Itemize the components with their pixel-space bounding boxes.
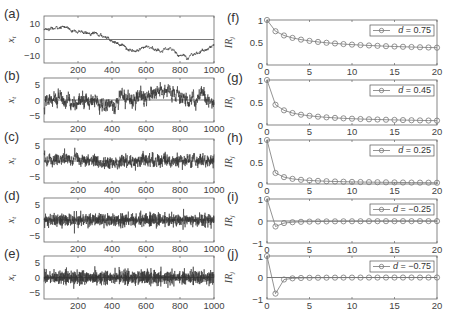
panel-label: (i) bbox=[227, 189, 239, 204]
y-tick-label: 0 bbox=[258, 179, 263, 190]
x-tick-label: 200 bbox=[70, 184, 86, 195]
y-axis-label: IRj bbox=[223, 215, 236, 227]
panel-g: (g)0510152010.50IRjd = 0.45 bbox=[223, 70, 442, 137]
panel-a: (a)2004006008001000100−10xt bbox=[4, 6, 225, 75]
y-tick-label: 0 bbox=[35, 272, 40, 283]
panel-h: (h)0510152010.50IRjd = 0.25 bbox=[223, 130, 442, 196]
time-series-line bbox=[44, 82, 214, 115]
y-tick-label: 5 bbox=[35, 79, 40, 90]
y-axis-label: IRj bbox=[223, 37, 236, 49]
panel-j: (j)0510152010−1IRjd = −0.75 bbox=[223, 246, 442, 311]
y-tick-label: 1 bbox=[258, 75, 263, 86]
panel-label: (d) bbox=[4, 188, 20, 203]
x-tick-label: 15 bbox=[389, 66, 400, 77]
y-axis-label: xt bbox=[5, 216, 18, 224]
panel-label: (j) bbox=[227, 246, 239, 261]
y-tick-label: 10 bbox=[29, 18, 40, 29]
figure: (a)2004006008001000100−10xt(b)2004006008… bbox=[0, 0, 454, 321]
legend-label: d = −0.25 bbox=[393, 204, 431, 214]
panel-d: (d)200400600800100050−5xt bbox=[4, 188, 225, 254]
y-tick-label: −1 bbox=[252, 238, 263, 249]
x-tick-label: 1000 bbox=[203, 123, 224, 134]
y-tick-label: 0 bbox=[258, 216, 263, 227]
y-tick-label: 0 bbox=[258, 60, 263, 71]
x-tick-label: 400 bbox=[104, 300, 120, 311]
x-tick-label: 800 bbox=[172, 64, 188, 75]
x-tick-label: 0 bbox=[264, 185, 269, 196]
panel-label: (h) bbox=[227, 130, 243, 145]
y-tick-label: 0 bbox=[258, 272, 263, 283]
x-tick-label: 20 bbox=[432, 185, 443, 196]
x-tick-label: 15 bbox=[389, 244, 400, 255]
x-tick-label: 1000 bbox=[203, 184, 224, 195]
x-tick-label: 5 bbox=[307, 244, 312, 255]
x-tick-label: 15 bbox=[389, 300, 400, 311]
y-tick-label: 0 bbox=[35, 156, 40, 167]
x-tick-label: 0 bbox=[264, 126, 269, 137]
legend-label: d = 0.25 bbox=[398, 145, 431, 155]
x-tick-label: 800 bbox=[172, 300, 188, 311]
y-tick-label: 5 bbox=[35, 140, 40, 151]
legend: d = −0.75 bbox=[370, 261, 434, 272]
x-tick-label: 600 bbox=[138, 184, 154, 195]
x-tick-label: 200 bbox=[70, 243, 86, 254]
x-tick-label: 5 bbox=[307, 66, 312, 77]
legend: d = −0.25 bbox=[370, 204, 434, 215]
panel-label: (b) bbox=[4, 68, 20, 83]
y-tick-label: −5 bbox=[29, 110, 40, 121]
panel-e: (e)200400600800100050−5xt bbox=[4, 246, 225, 311]
x-tick-label: 200 bbox=[70, 64, 86, 75]
legend: d = 0.45 bbox=[370, 85, 434, 96]
y-tick-label: 1 bbox=[258, 194, 263, 205]
x-tick-label: 10 bbox=[347, 300, 358, 311]
y-axis-label: xt bbox=[5, 35, 18, 43]
x-tick-label: 600 bbox=[138, 64, 154, 75]
x-tick-label: 10 bbox=[347, 66, 358, 77]
x-tick-label: 20 bbox=[432, 244, 443, 255]
panel-i: (i)0510152010−1IRjd = −0.25 bbox=[223, 189, 442, 255]
x-tick-label: 10 bbox=[347, 185, 358, 196]
x-tick-label: 800 bbox=[172, 123, 188, 134]
y-tick-label: 0 bbox=[35, 95, 40, 106]
x-tick-label: 200 bbox=[70, 300, 86, 311]
y-tick-label: −5 bbox=[29, 230, 40, 241]
y-tick-label: 0 bbox=[35, 215, 40, 226]
x-tick-label: 10 bbox=[347, 244, 358, 255]
x-tick-label: 400 bbox=[104, 243, 120, 254]
x-tick-label: 5 bbox=[307, 300, 312, 311]
y-tick-label: 0.5 bbox=[250, 37, 263, 48]
legend: d = 0.75 bbox=[370, 25, 434, 36]
x-tick-label: 200 bbox=[70, 123, 86, 134]
y-axis-label: IRj bbox=[223, 156, 236, 168]
y-tick-label: 5 bbox=[35, 199, 40, 210]
y-axis-label: xt bbox=[5, 96, 18, 104]
y-tick-label: 0.5 bbox=[250, 97, 263, 108]
y-tick-label: 1 bbox=[258, 251, 263, 262]
y-tick-label: −1 bbox=[252, 294, 263, 305]
time-series-line bbox=[44, 266, 214, 289]
x-tick-label: 600 bbox=[138, 243, 154, 254]
time-series-line bbox=[44, 148, 214, 171]
y-tick-label: 5 bbox=[35, 257, 40, 268]
x-tick-label: 800 bbox=[172, 243, 188, 254]
y-tick-label: 1 bbox=[258, 135, 263, 146]
y-tick-label: 1 bbox=[258, 15, 263, 26]
x-tick-label: 20 bbox=[432, 300, 443, 311]
legend-label: d = 0.75 bbox=[398, 25, 431, 35]
legend-label: d = −0.75 bbox=[393, 261, 431, 271]
y-tick-label: −10 bbox=[24, 50, 40, 61]
time-series-line bbox=[44, 209, 214, 234]
x-tick-label: 20 bbox=[432, 66, 443, 77]
panel-label: (c) bbox=[4, 129, 19, 144]
y-tick-label: −5 bbox=[29, 287, 40, 298]
x-tick-label: 15 bbox=[389, 185, 400, 196]
panel-f: (f)0510152010.50IRjd = 0.75 bbox=[223, 10, 442, 77]
x-tick-label: 0 bbox=[264, 66, 269, 77]
y-tick-label: −5 bbox=[29, 171, 40, 182]
y-axis-label: xt bbox=[5, 273, 18, 281]
y-tick-label: 0.5 bbox=[250, 157, 263, 168]
y-axis-label: xt bbox=[5, 157, 18, 165]
x-tick-label: 600 bbox=[138, 300, 154, 311]
x-tick-label: 15 bbox=[389, 126, 400, 137]
y-axis-label: IRj bbox=[223, 97, 236, 109]
